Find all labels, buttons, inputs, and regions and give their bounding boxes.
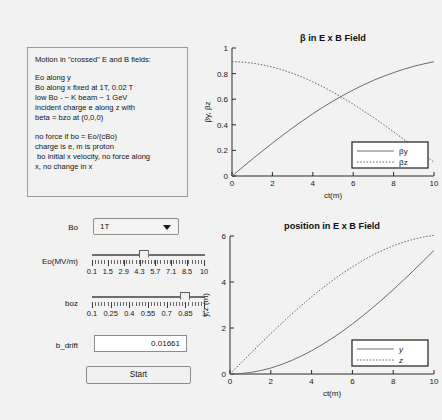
y-tick-label: 6 [222,232,227,241]
slider-tick-label: 0.25 [103,309,117,318]
x-axis-label: ct(m) [323,389,342,398]
boz-slider-tick-labels: 0.10.250.40.550.70.851 [92,309,205,319]
description-spacer [35,124,181,132]
description-line: Eo along y [35,73,181,83]
chart-legend [352,142,428,168]
bo-select-value: 1T [100,222,109,231]
bo-label: Bo [38,223,78,232]
start-button[interactable]: Start [86,366,191,384]
description-line: incident charge e along z with [35,103,181,113]
y-tick-label: 0.8 [217,70,229,79]
x-tick-label: 2 [270,179,275,188]
x-axis-label: ct(m) [324,191,343,200]
boz-slider-ticks [92,302,205,309]
eo-slider-ticks [92,260,205,267]
description-line: Motion in "crossed" E and B fields: [35,55,181,65]
slider-tick-label: 5.7 [150,267,160,276]
x-tick-label: 10 [430,377,439,386]
y-tick-label: 2 [222,324,227,333]
x-tick-label: 10 [430,179,439,188]
application-window: Motion in "crossed" E and B fields:Eo al… [0,0,442,420]
y-tick-label: 0 [224,172,229,181]
slider-tick-label: 0.1 [87,309,97,318]
y-tick-label: 0.6 [217,95,229,104]
b-drift-label: b_drift [28,341,78,350]
bo-select[interactable]: 1T [93,218,179,235]
b-drift-value: 0.01661 [151,339,180,348]
chart-legend [352,340,428,366]
slider-tick-label: 0.55 [141,309,155,318]
slider-tick-label: 2.9 [119,267,129,276]
legend-label: βz [399,158,408,167]
eo-label: Eo(MV/m) [8,257,78,266]
description-line: bo initial x velocity, no force along [35,152,181,162]
slider-tick-label: 0.7 [162,309,172,318]
slider-tick-label: 0.4 [124,309,134,318]
slider-tick-label: 0.85 [178,309,192,318]
legend-label: z [398,356,403,365]
description-spacer [35,65,181,73]
y-tick-label: 0.4 [217,121,229,130]
description-line: charge is e, m is proton [35,142,181,152]
x-tick-label: 2 [269,377,274,386]
x-tick-label: 0 [228,377,233,386]
x-tick-label: 4 [309,377,314,386]
slider-tick-label: 8.5 [182,267,192,276]
description-line: beta = bzo at (0,0,0) [35,113,181,123]
slider-tick-label: 4.3 [134,267,144,276]
y-tick-label: 4 [222,278,227,287]
boz-label: boz [28,299,78,308]
eo-slider-tick-labels: 0.11.52.94.35.77.18.510 [92,267,205,277]
y-axis-label: βy, βz [203,101,212,122]
chevron-down-icon [163,225,171,230]
beta-chart: β in E x B Field024681000.20.40.60.81ct(… [196,26,442,210]
x-tick-label: 8 [391,179,396,188]
chart-title: position in E x B Field [284,221,380,231]
x-tick-label: 8 [391,377,396,386]
x-tick-label: 0 [230,179,235,188]
slider-tick-label: 0.1 [87,267,97,276]
description-panel: Motion in "crossed" E and B fields:Eo al… [27,47,188,197]
x-tick-label: 4 [311,179,316,188]
y-tick-label: 0.2 [217,146,229,155]
legend-label: βy [399,147,408,156]
description-line: no force if bo = Eo/(cBo) [35,132,181,142]
x-tick-label: 6 [350,377,355,386]
slider-tick-label: 1.5 [103,267,113,276]
y-axis-label: y,z (m) [201,293,210,317]
description-line: Bo along x fixed at 1T, 0.02 T [35,83,181,93]
description-line: low Bo - ~ K beam ~ 1 GeV [35,93,181,103]
y-tick-label: 1 [224,44,229,53]
position-chart: position in E x B Field02468100246ct(m)y… [196,214,442,414]
y-tick-label: 0 [222,370,227,379]
x-tick-label: 6 [351,179,356,188]
description-line: x, no change in x [35,162,181,172]
start-button-label: Start [87,370,190,379]
slider-tick-label: 7.1 [166,267,176,276]
b-drift-input[interactable]: 0.01661 [94,335,187,352]
chart-title: β in E x B Field [300,33,366,43]
